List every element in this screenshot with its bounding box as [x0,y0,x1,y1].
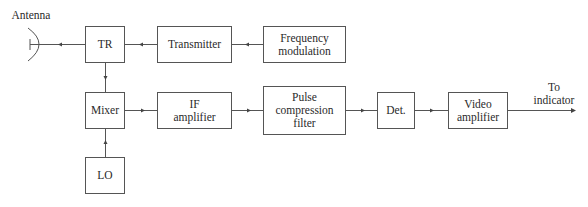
arrow-icon [58,43,62,47]
arrow-icon [430,109,434,113]
tr-block: TR [85,26,125,63]
arrow-icon [247,109,251,113]
antenna-label: Antenna [10,9,52,22]
lo-label: LO [97,169,112,182]
radar-block-diagram: Antenna TR Transmitter Frequency modulat… [0,0,588,207]
if-amplifier-block: IF amplifier [157,92,232,129]
arrow-icon [139,43,143,47]
transmitter-label: Transmitter [168,38,221,51]
arrow-icon [245,43,249,47]
to-indicator-label: To indicator [530,81,578,107]
video-amplifier-label: Video amplifier [457,98,499,124]
pulse-compression-filter-block: Pulse compression filter [263,86,346,135]
frequency-modulation-block: Frequency modulation [263,26,346,63]
frequency-modulation-label: Frequency modulation [278,32,330,58]
arrow-icon [104,140,108,144]
detector-label: Det. [386,104,405,117]
mixer-label: Mixer [91,104,119,117]
lo-block: LO [85,157,125,194]
mixer-block: Mixer [85,92,125,129]
if-amplifier-label: IF amplifier [173,98,215,124]
arrow-icon [141,109,145,113]
video-amplifier-block: Video amplifier [448,92,508,129]
arrow-icon [104,76,108,80]
detector-block: Det. [377,92,415,129]
transmitter-block: Transmitter [157,26,232,63]
tr-label: TR [98,38,113,51]
pulse-compression-filter-label: Pulse compression filter [275,91,333,130]
arrow-icon [571,108,576,113]
arrow-icon [361,109,365,113]
